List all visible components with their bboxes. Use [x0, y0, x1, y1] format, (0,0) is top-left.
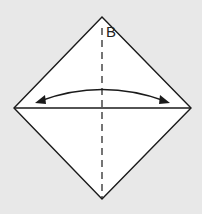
fold-label: B — [106, 24, 116, 39]
origami-diagram — [0, 0, 202, 214]
